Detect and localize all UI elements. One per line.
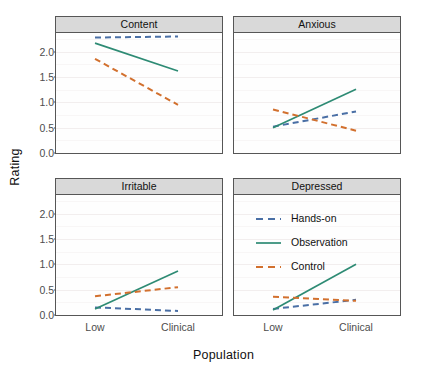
facet-panel-anxious: Anxious: [233, 16, 401, 154]
series-line-control: [273, 297, 356, 301]
legend-label: Control: [291, 261, 325, 272]
gridline-major: [56, 315, 222, 316]
legend-key-icon: [255, 213, 282, 225]
series-line-hands-on: [95, 37, 178, 38]
y-tick-label: 0.5: [28, 122, 54, 134]
y-tick-label: 2.0: [28, 208, 54, 220]
facet-panel-content: Content: [55, 16, 223, 154]
facet-strip: Irritable: [55, 178, 223, 195]
y-axis-ticks: 0.00.51.01.52.0: [24, 195, 54, 316]
series-lines: [234, 33, 400, 152]
facet-strip: Anxious: [233, 16, 401, 33]
legend-label: Observation: [291, 237, 348, 248]
y-tick-label: 1.5: [28, 71, 54, 83]
y-tick-label: 0.0: [28, 147, 54, 159]
legend-item-control[interactable]: Control: [255, 260, 348, 273]
legend-key-icon: [255, 261, 282, 273]
legend: Hands-onObservationControl: [255, 212, 348, 273]
facet-panel-irritable: Irritable: [55, 178, 223, 316]
y-tick-label: 1.5: [28, 233, 54, 245]
series-line-control: [95, 59, 178, 105]
x-tick-mark: [95, 315, 96, 316]
y-tick-label: 0.5: [28, 284, 54, 296]
facet-strip: Content: [55, 16, 223, 33]
series-line-control: [95, 287, 178, 296]
plot-area: [55, 195, 223, 316]
facet-strip-label: Anxious: [298, 19, 335, 30]
y-tick-label: 1.0: [28, 258, 54, 270]
x-tick-mark: [356, 315, 357, 316]
plot-area: [55, 33, 223, 154]
y-tick-label: 0.0: [28, 309, 54, 321]
x-tick-mark: [178, 315, 179, 316]
x-axis-title: Population: [0, 348, 447, 362]
series-lines: [56, 195, 222, 314]
facet-strip-label: Content: [121, 19, 158, 30]
y-axis-title: Rating: [8, 127, 22, 207]
x-tick-label: Clinical: [161, 321, 195, 333]
legend-item-hands-on[interactable]: Hands-on: [255, 212, 348, 225]
gridline-major: [56, 153, 222, 154]
facet-strip: Depressed: [233, 178, 401, 195]
plot-area: [233, 33, 401, 154]
gridline-major: [234, 315, 400, 316]
x-tick-label: Clinical: [339, 321, 373, 333]
y-tick-label: 2.0: [28, 46, 54, 58]
series-line-observation: [95, 271, 178, 309]
facet-strip-label: Depressed: [292, 181, 343, 192]
series-line-hands-on: [95, 307, 178, 311]
x-tick-mark: [273, 315, 274, 316]
y-axis-ticks: 0.00.51.01.52.0: [24, 33, 54, 154]
series-lines: [56, 33, 222, 152]
facet-strip-label: Irritable: [121, 181, 156, 192]
legend-label: Hands-on: [291, 213, 337, 224]
x-tick-label: Low: [263, 321, 282, 333]
facet-line-chart: Rating Population 0.00.51.01.52.00.00.51…: [0, 0, 447, 373]
series-line-observation: [273, 89, 356, 127]
y-tick-label: 1.0: [28, 96, 54, 108]
legend-key-icon: [255, 237, 282, 249]
series-line-control: [273, 109, 356, 130]
legend-item-observation[interactable]: Observation: [255, 236, 348, 249]
gridline-major: [234, 153, 400, 154]
x-tick-label: Low: [85, 321, 104, 333]
